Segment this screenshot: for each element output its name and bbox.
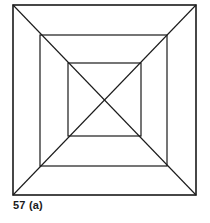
nested-squares-diagram — [0, 0, 210, 223]
figure-caption: 57 (a) — [13, 199, 43, 211]
